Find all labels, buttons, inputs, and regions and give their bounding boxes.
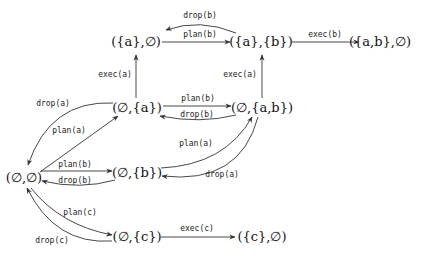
label-plan-b-low: plan(b) xyxy=(58,160,92,169)
node-empty-c: (∅,{c}) xyxy=(112,229,161,244)
node-empty-a: (∅,{a}) xyxy=(112,100,162,115)
label-drop-c: drop(c) xyxy=(35,236,69,245)
label-drop-b-mid: drop(b) xyxy=(180,110,214,119)
label-exec-b: exec(b) xyxy=(308,30,342,39)
label-drop-a-left: drop(a) xyxy=(36,99,70,108)
node-c-empty: ({c},∅) xyxy=(237,229,286,244)
node-empty-ab: (∅,{a,b}) xyxy=(231,100,293,115)
label-plan-b-mid: plan(b) xyxy=(181,94,215,103)
label-exec-a-left: exec(a) xyxy=(98,70,132,79)
label-drop-b-top: drop(b) xyxy=(183,11,217,20)
label-plan-b-top: plan(b) xyxy=(183,30,217,39)
node-empty-empty: (∅,∅) xyxy=(6,170,42,185)
node-ab-empty: ({a,b},∅) xyxy=(349,34,411,49)
state-transition-diagram: ({a},∅) ({a},{b}) ({a,b},∅) (∅,{a}) (∅,{… xyxy=(0,0,424,259)
label-drop-b-low: drop(b) xyxy=(58,176,92,185)
node-a-empty: ({a},∅) xyxy=(111,34,161,49)
node-empty-b: (∅,{b}) xyxy=(112,165,162,180)
label-plan-a-right: plan(a) xyxy=(179,139,213,148)
label-exec-a-right: exec(a) xyxy=(223,70,257,79)
label-plan-a-left: plan(a) xyxy=(52,126,86,135)
label-drop-a-right: drop(a) xyxy=(205,170,239,179)
node-a-b: ({a},{b}) xyxy=(229,34,292,49)
label-exec-c: exec(c) xyxy=(180,224,214,233)
label-plan-c: plan(c) xyxy=(63,208,97,217)
